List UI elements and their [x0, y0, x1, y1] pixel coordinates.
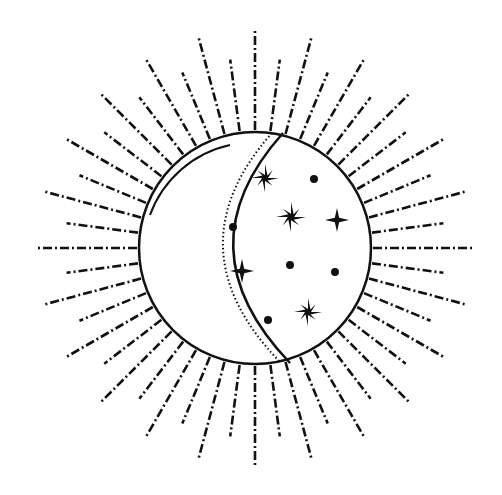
dot-star-icon — [264, 316, 272, 324]
sun-ray — [146, 59, 196, 146]
sun-ray — [230, 60, 239, 131]
moon-sunburst-illustration — [0, 0, 502, 495]
sun-ray — [372, 263, 443, 272]
dot-star-icon — [310, 175, 318, 183]
sun-ray — [101, 331, 172, 402]
sun-ray — [270, 365, 279, 436]
sun-ray — [66, 139, 153, 189]
sun-ray — [139, 342, 183, 399]
sun-ray — [104, 132, 161, 176]
sun-ray — [101, 94, 172, 165]
sun-ray — [67, 263, 138, 272]
sun-ray — [230, 365, 239, 436]
sun-ray — [372, 223, 443, 232]
dot-star-icon — [286, 261, 294, 269]
sun-ray — [349, 132, 406, 176]
moon-disc-outline — [139, 132, 371, 364]
sun-ray — [338, 331, 409, 402]
dot-star-icon — [229, 223, 237, 231]
sun-ray — [139, 97, 183, 154]
sun-ray — [66, 307, 153, 357]
sun-ray — [327, 97, 371, 154]
sun-ray — [270, 60, 279, 131]
sun-ray — [314, 59, 364, 146]
sun-ray — [357, 139, 444, 189]
dot-star-icon — [331, 268, 339, 276]
sun-ray — [357, 307, 444, 357]
sun-ray — [338, 94, 409, 165]
sun-ray — [327, 342, 371, 399]
sun-ray — [104, 320, 161, 364]
sun-ray — [67, 223, 138, 232]
sun-ray — [349, 320, 406, 364]
sun-ray — [146, 350, 196, 437]
sun-ray — [314, 350, 364, 437]
